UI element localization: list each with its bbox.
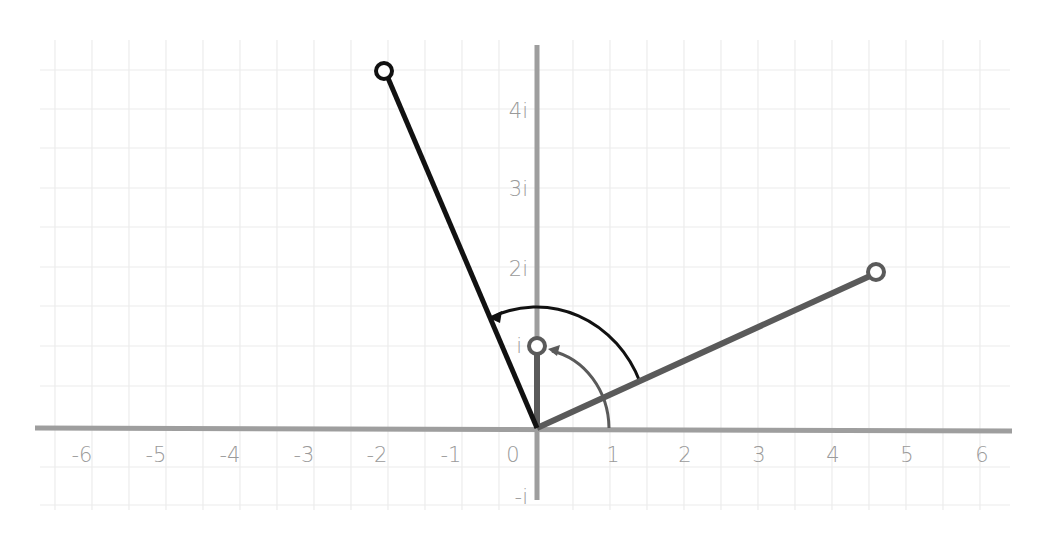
y-tick: 2i — [509, 257, 528, 281]
x-tick: -5 — [146, 443, 167, 467]
point-iz-icon — [376, 63, 392, 79]
point-i-icon — [529, 338, 545, 354]
real-axis — [35, 428, 1012, 431]
x-tick: -6 — [72, 443, 93, 467]
x-tick: 4 — [826, 443, 839, 467]
x-tick: -1 — [441, 443, 462, 467]
complex-plane-diagram: -6 -5 -4 -3 -2 -1 0 1 2 3 4 5 6 4i 3i 2i… — [0, 0, 1048, 543]
x-tick: -3 — [294, 443, 315, 467]
vector-z — [537, 276, 870, 428]
x-tick: 3 — [752, 443, 765, 467]
y-tick: 3i — [509, 177, 528, 201]
y-tick: 4i — [509, 99, 528, 123]
point-z-icon — [868, 264, 884, 280]
x-tick-labels: -6 -5 -4 -3 -2 -1 0 1 2 3 4 5 6 — [72, 443, 989, 467]
x-tick: -4 — [220, 443, 241, 467]
arrowhead-gray-icon — [548, 345, 560, 356]
x-tick: -2 — [367, 443, 388, 467]
y-tick: -i — [515, 485, 528, 509]
y-tick: i — [516, 334, 522, 358]
x-tick: 5 — [900, 443, 913, 467]
x-tick: 6 — [975, 443, 988, 467]
x-tick: 0 — [506, 443, 519, 467]
x-tick: 2 — [678, 443, 691, 467]
x-tick: 1 — [606, 443, 619, 467]
